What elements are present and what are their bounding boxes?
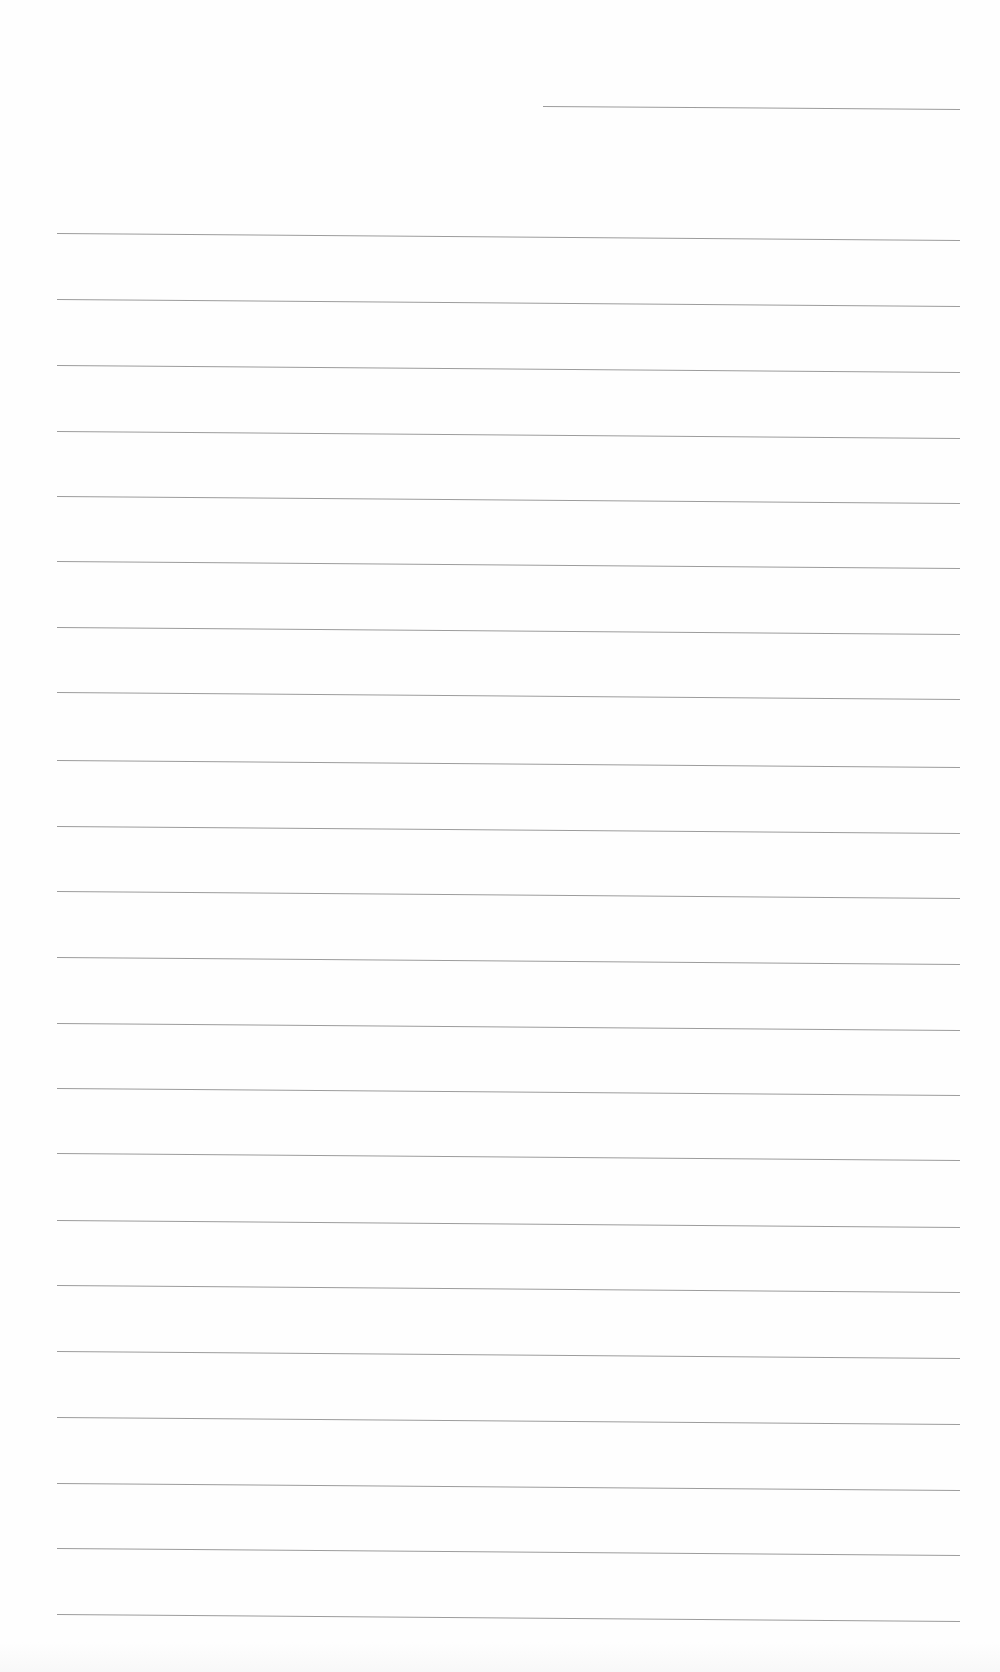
ruled-line [57, 760, 960, 768]
ruled-line [57, 431, 960, 439]
ruled-paper-sheet [0, 0, 1000, 1672]
ruled-line [57, 1483, 960, 1491]
ruled-line [57, 627, 960, 635]
ruled-line [57, 1285, 960, 1293]
ruled-line [57, 692, 960, 700]
ruled-line [57, 1088, 960, 1096]
ruled-line [57, 1548, 960, 1556]
ruled-line [57, 1023, 960, 1031]
header-name-line [543, 106, 960, 110]
ruled-line [57, 365, 960, 373]
ruled-line [57, 957, 960, 965]
ruled-line [57, 1417, 960, 1425]
scan-artifact-edge [0, 1642, 1000, 1672]
ruled-line [57, 1351, 960, 1359]
ruled-line [57, 233, 960, 241]
ruled-line [57, 826, 960, 834]
ruled-line [57, 299, 960, 307]
ruled-line [57, 496, 960, 504]
ruled-line [57, 1153, 960, 1161]
ruled-line [57, 1220, 960, 1228]
ruled-line [57, 1614, 960, 1622]
ruled-line [57, 891, 960, 899]
ruled-line [57, 561, 960, 569]
